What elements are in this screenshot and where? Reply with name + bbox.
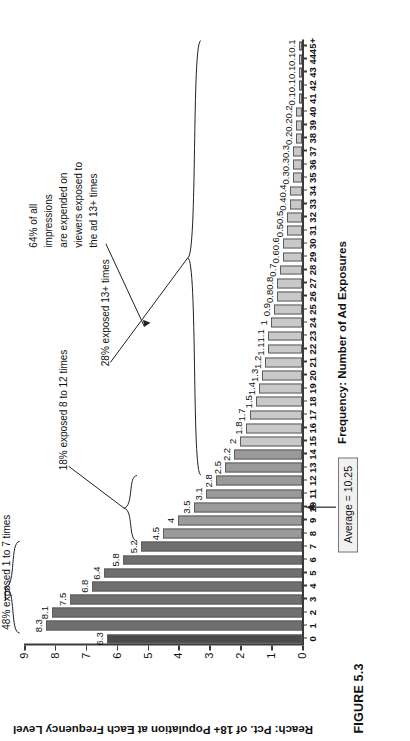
bar-value-label: 0.1	[287, 92, 297, 105]
bar	[216, 475, 302, 485]
category-tick-label: 0	[308, 636, 318, 641]
y-axis-tick	[302, 645, 304, 650]
rotated-figure-canvas: FIGURE 5.3 0123456789 6.38.38.17.56.86.4…	[0, 0, 410, 741]
bar	[293, 159, 302, 169]
bar	[206, 489, 302, 499]
category-tick-label: 41	[308, 93, 318, 104]
category-tick-label: 23	[308, 330, 318, 341]
annotation-line	[188, 40, 201, 474]
figure-caption: FIGURE 5.3	[352, 663, 366, 733]
category-tick-label: 9	[308, 517, 318, 522]
bar-value-label: 0.2	[284, 105, 294, 118]
category-tick-label: 36	[308, 159, 318, 170]
bar	[52, 607, 302, 617]
category-tick-label: 13	[308, 462, 318, 473]
annotation-impressions-callout: 64% of all impressions are expended on v…	[26, 162, 101, 248]
bar-value-label: 0.1	[287, 65, 297, 78]
bar	[234, 449, 302, 459]
bar-value-label: 1	[259, 320, 269, 325]
bar-value-label: 0.4	[278, 184, 288, 197]
category-tick-label: 14	[308, 449, 318, 460]
bar-value-label: 1.7	[237, 408, 247, 421]
bar	[293, 146, 302, 156]
category-tick-label: 43	[308, 67, 318, 78]
category-tick-label: 20	[308, 370, 318, 381]
bar	[259, 383, 302, 393]
category-tick-label: 24	[308, 317, 318, 328]
figure-page: FIGURE 5.3 0123456789 6.38.38.17.56.86.4…	[0, 0, 410, 741]
category-tick-label: 4	[308, 583, 318, 588]
annotation-line	[110, 257, 187, 361]
annotation-brace-13-plus-label: 28% exposed 13+ times	[100, 259, 113, 366]
bar	[92, 581, 302, 591]
bar	[277, 278, 302, 288]
category-tick-label: 44	[308, 53, 318, 64]
bar-value-label: 7.5	[58, 592, 68, 605]
bar-value-label: 5.8	[111, 553, 121, 566]
y-axis-tick-label: 7	[80, 652, 91, 658]
category-tick-label: 12	[308, 475, 318, 486]
category-tick-label: 21	[308, 356, 318, 367]
bar	[287, 225, 302, 235]
category-tick-label: 8	[308, 530, 318, 535]
bar	[262, 370, 302, 380]
bar	[277, 291, 302, 301]
category-tick-label: 35	[308, 172, 318, 183]
category-tick-label: 16	[308, 422, 318, 433]
category-tick-label: 25	[308, 304, 318, 315]
y-axis-tick	[209, 645, 211, 650]
bar	[250, 410, 303, 420]
bar-value-label: 1.4	[247, 382, 257, 395]
bar-value-label: 1.5	[244, 395, 254, 408]
bar-value-label: 2.5	[213, 461, 223, 474]
bar	[296, 120, 302, 130]
y-axis-tick	[117, 645, 119, 650]
y-axis-tick-label: 2	[235, 652, 246, 658]
bar-value-label: 2.2	[222, 447, 232, 460]
bar-value-label: 0.6	[271, 250, 281, 263]
bar-value-label: 1.1	[256, 329, 266, 342]
bar-value-label: 5.2	[129, 540, 139, 553]
bar-value-label: 3.1	[194, 487, 204, 500]
category-tick-label: 2	[308, 609, 318, 614]
category-tick-label: 34	[308, 185, 318, 196]
bar	[299, 67, 302, 77]
bar-value-label: 1.8	[234, 421, 244, 434]
category-tick-label: 7	[308, 544, 318, 549]
category-tick-label: 32	[308, 212, 318, 223]
bar-value-label: 0.1	[287, 52, 297, 65]
category-tick-label: 15	[308, 436, 318, 447]
y-axis-tick-label: 1	[266, 652, 277, 658]
category-tick-label: 27	[308, 277, 318, 288]
bar	[290, 186, 302, 196]
bar	[299, 93, 302, 103]
y-axis-tick	[148, 645, 150, 650]
category-tick-label: 40	[308, 106, 318, 117]
bar	[163, 528, 302, 538]
bar	[70, 594, 302, 604]
y-axis-title: Reach: Pct. of 18+ Population at Each Fr…	[13, 723, 313, 735]
category-tick-label: 38	[308, 133, 318, 144]
annotation-line	[124, 475, 137, 540]
category-tick-label: 42	[308, 80, 318, 91]
bar-value-label: 0.6	[271, 237, 281, 250]
category-tick-label: 28	[308, 264, 318, 275]
y-axis-tick	[86, 645, 88, 650]
bar-value-label: 0.4	[278, 197, 288, 210]
bar-value-label: 0.8	[265, 289, 275, 302]
bar	[268, 331, 302, 341]
category-tick-label: 31	[308, 225, 318, 236]
bar-value-label: 0.9	[262, 302, 272, 315]
y-axis-tick-label: 9	[19, 652, 30, 658]
bar	[299, 54, 302, 64]
category-tick-label: 33	[308, 198, 318, 209]
category-tick-label: 39	[308, 119, 318, 130]
bar	[274, 304, 302, 314]
bar-value-label: 8.3	[34, 619, 44, 632]
y-axis-tick-label: 0	[297, 652, 308, 658]
bar-value-label: 0.3	[281, 144, 291, 157]
bar	[104, 568, 302, 578]
bar	[265, 357, 302, 367]
y-axis-tick	[24, 645, 26, 650]
bar-value-label: 8.1	[40, 605, 50, 618]
